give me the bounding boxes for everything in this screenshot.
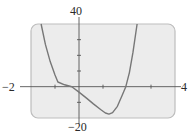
x-max-label: 4 [181,81,187,93]
function-plot [0,0,192,134]
y-min-label: −20 [68,121,87,133]
y-max-label: 40 [70,5,82,17]
plot-window-frame [31,24,175,118]
x-min-label: −2 [2,81,15,93]
